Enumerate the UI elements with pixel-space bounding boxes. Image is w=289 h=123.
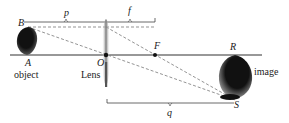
label-B: B bbox=[18, 17, 24, 28]
rays bbox=[28, 27, 235, 100]
image-shape bbox=[219, 55, 252, 99]
label-f: f bbox=[128, 5, 132, 16]
bottom-dimension-bracket bbox=[107, 99, 234, 106]
top-dimension-bracket bbox=[24, 18, 155, 22]
label-F: F bbox=[153, 40, 161, 51]
label-O: O bbox=[97, 57, 104, 68]
label-p: p bbox=[63, 7, 69, 18]
ray-through-focus bbox=[106, 27, 235, 100]
object-shape bbox=[17, 27, 37, 55]
label-object: object bbox=[14, 69, 39, 80]
focal-point bbox=[153, 53, 157, 57]
label-lens: Lens bbox=[81, 69, 101, 80]
label-A: A bbox=[24, 57, 32, 68]
label-q: q bbox=[167, 107, 172, 118]
lens-ray-diagram: p f B A object O Lens F R image S q bbox=[0, 0, 289, 123]
label-image: image bbox=[254, 66, 279, 77]
label-S: S bbox=[234, 99, 239, 110]
ray-through-center bbox=[28, 27, 235, 100]
label-R: R bbox=[229, 41, 236, 52]
lens-center-point bbox=[104, 53, 108, 57]
